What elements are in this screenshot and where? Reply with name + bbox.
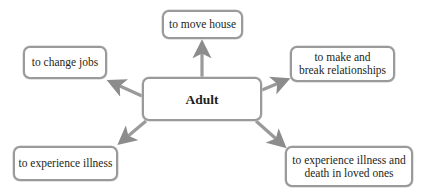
center-label: Adult — [185, 93, 218, 106]
node-to-make-and-break-relationships: to make and break relationships — [290, 46, 395, 82]
arrow-to-illness-death — [256, 121, 283, 145]
node-label: to make and break relationships — [299, 51, 386, 77]
node-label: to change jobs — [32, 56, 98, 69]
node-label: to experience illness — [19, 157, 113, 170]
node-label: to move house — [169, 18, 236, 31]
node-to-move-house: to move house — [162, 10, 243, 39]
node-adult-center: Adult — [142, 77, 262, 121]
arrow-to-relationships — [262, 80, 286, 90]
node-to-change-jobs: to change jobs — [23, 46, 107, 79]
arrow-to-change-jobs — [111, 82, 142, 96]
arrow-to-illness — [121, 121, 146, 142]
node-to-experience-illness-and-death: to experience illness and death in loved… — [285, 146, 413, 187]
node-label: to experience illness and death in loved… — [292, 154, 405, 180]
node-to-experience-illness: to experience illness — [13, 146, 118, 181]
